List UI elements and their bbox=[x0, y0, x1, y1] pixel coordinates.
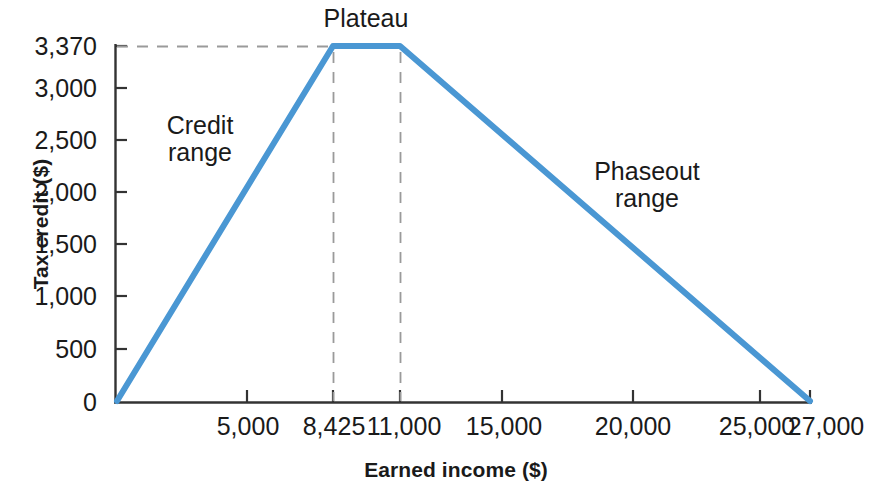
annotation-phaseout-range-line1: Phaseout bbox=[594, 158, 700, 185]
x-tick-label-15000: 15,000 bbox=[466, 414, 542, 439]
annotation-plateau-line1: Plateau bbox=[324, 5, 409, 32]
annotation-plateau: Plateau bbox=[324, 5, 409, 32]
y-tick-label-500: 500 bbox=[0, 337, 97, 362]
x-tick-label-25000: 25,000 bbox=[719, 414, 795, 439]
y-axis-ticks bbox=[115, 46, 127, 349]
x-tick-label-5000: 5,000 bbox=[217, 414, 280, 439]
x-tick-label-20000: 20,000 bbox=[595, 414, 671, 439]
eitc-schedule-line bbox=[117, 46, 810, 401]
x-axis-title: Earned income ($) bbox=[364, 459, 548, 480]
y-axis-title: Tax credit ($) bbox=[30, 159, 51, 290]
x-tick-label-11000: 11,000 bbox=[367, 414, 442, 439]
chart-figure: 3,370 3,000 2,500 2,000 1,500 1,000 500 … bbox=[0, 0, 877, 489]
annotation-phaseout-range-line2: range bbox=[594, 185, 700, 212]
annotation-credit-range-line1: Credit bbox=[167, 112, 234, 139]
x-tick-label-27000: 27,000 bbox=[788, 414, 864, 439]
annotation-phaseout-range: Phaseout range bbox=[594, 158, 700, 212]
x-tick-label-8425: 8,425 bbox=[303, 414, 366, 439]
y-tick-label-3370: 3,370 bbox=[0, 34, 97, 59]
y-tick-label-3000: 3,000 bbox=[0, 76, 97, 101]
annotation-credit-range-line2: range bbox=[167, 139, 234, 166]
y-tick-label-2500: 2,500 bbox=[0, 128, 97, 153]
annotation-credit-range: Credit range bbox=[167, 112, 234, 166]
y-tick-label-0: 0 bbox=[0, 390, 97, 415]
x-axis-ticks bbox=[247, 390, 810, 402]
